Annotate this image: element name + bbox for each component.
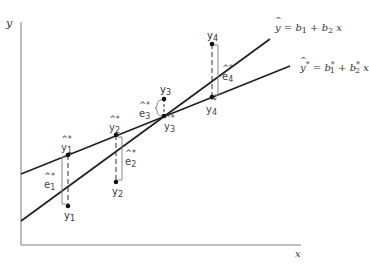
- fitted-label-4: ^* y4: [206, 99, 217, 115]
- residual-label-3: ^* e3: [139, 103, 150, 119]
- observed-label-2: y2: [112, 187, 123, 197]
- fitted-label-2: ^* y2: [109, 117, 120, 133]
- residual-label-4: ^* e4: [222, 66, 233, 82]
- residual-bracket-1: [62, 157, 66, 204]
- alt-regression-line: [21, 66, 290, 174]
- fitted-label-3: ^* y3: [164, 116, 175, 132]
- residual-bracket-4: [214, 45, 218, 95]
- x-axis-label: x: [295, 249, 301, 259]
- fitted-label-1: ^* y1: [61, 137, 72, 153]
- ols-line-equation: ^ y = b1 + b2 x: [275, 23, 342, 33]
- observed-label-4: y4: [207, 31, 218, 41]
- observed-point-2: [114, 180, 119, 185]
- observed-point-1: [66, 204, 71, 209]
- observed-label-3: y3: [160, 85, 171, 95]
- residual-bracket-3: [155, 100, 162, 116]
- hat-mark: ^: [275, 16, 282, 24]
- residual-bracket-2: [118, 137, 122, 180]
- alt-line-equation: ^ y* = b*1 + b*2 x: [300, 63, 369, 73]
- y-axis-label: y: [6, 18, 12, 29]
- observed-point-3: [162, 97, 167, 102]
- residual-label-1: ^* e1: [44, 174, 55, 190]
- residual-label-2: ^* e2: [125, 151, 136, 167]
- observed-label-1: y1: [64, 211, 75, 221]
